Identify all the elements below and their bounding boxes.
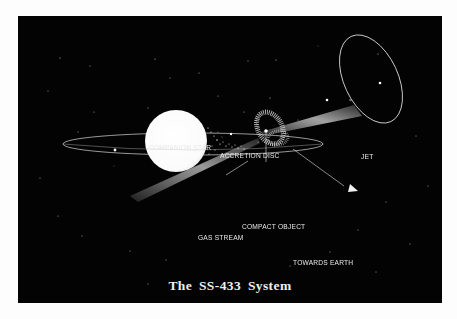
- towards-earth-arrowhead: [348, 184, 358, 192]
- background-stars: [40, 46, 429, 285]
- compact-object: [264, 129, 268, 133]
- diagram-artwork: [18, 16, 442, 303]
- label-jet: JET: [361, 153, 373, 160]
- jet-upper: [261, 105, 362, 136]
- diagram-title: The SS-433 System: [18, 278, 442, 294]
- label-gas-stream: GAS STREAM: [198, 234, 244, 241]
- towards-earth-line: [293, 149, 344, 186]
- label-compact-object: COMPACT OBJECT: [242, 223, 305, 230]
- diagram-panel: COMPANION STAR ACCRETION DISC JET COMPAC…: [18, 16, 442, 303]
- gas-stream-pointer: [226, 161, 248, 175]
- label-companion-star: COMPANION STAR: [149, 144, 211, 151]
- label-towards-earth: TOWARDS EARTH: [293, 259, 353, 266]
- companion-star: [145, 110, 207, 172]
- label-accretion-disc: ACCRETION DISC: [220, 152, 280, 159]
